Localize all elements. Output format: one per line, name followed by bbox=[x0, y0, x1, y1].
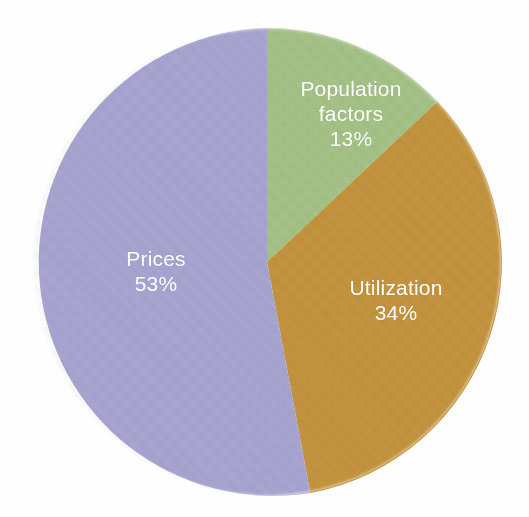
slice-label-prices: Prices 53% bbox=[126, 246, 186, 296]
slice-label-utilization: Utilization 34% bbox=[349, 275, 442, 325]
slice-label-population-factors: Population factors 13% bbox=[300, 76, 401, 151]
slice-label-population-factors-line1: Population bbox=[300, 76, 401, 101]
pie-slices bbox=[39, 28, 502, 496]
slice-value-population-factors: 13% bbox=[300, 126, 401, 151]
slice-value-utilization: 34% bbox=[349, 300, 442, 325]
pie-svg bbox=[0, 0, 529, 517]
pie-graphic bbox=[0, 0, 529, 517]
slice-label-population-factors-line2: factors bbox=[300, 101, 401, 126]
pie-chart: Population factors 13% Utilization 34% P… bbox=[0, 0, 529, 517]
slice-label-prices-line1: Prices bbox=[126, 246, 186, 271]
slice-value-prices: 53% bbox=[126, 271, 186, 296]
slice-label-utilization-line1: Utilization bbox=[349, 275, 442, 300]
